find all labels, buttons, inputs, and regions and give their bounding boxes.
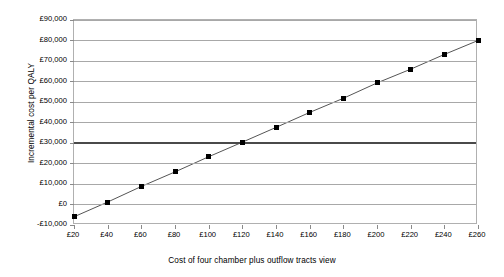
x-axis-tick-mark (411, 225, 412, 229)
x-axis-tick-mark (242, 225, 243, 229)
x-axis-tick-mark (141, 225, 142, 229)
gridline-horizontal (74, 122, 476, 123)
data-point-marker (206, 154, 211, 159)
y-axis-tick-mark (70, 61, 74, 62)
y-axis-tick-mark (70, 184, 74, 185)
gridline-horizontal (74, 102, 476, 103)
y-axis-tick-mark (70, 163, 74, 164)
x-axis-tick-mark (343, 225, 344, 229)
data-point-marker (375, 80, 380, 85)
y-axis-tick-label: £40,000 (3, 117, 67, 126)
gridline-horizontal (74, 204, 476, 205)
x-axis-tick-label: £260 (455, 230, 499, 239)
y-axis-tick-label: £20,000 (3, 158, 67, 167)
y-axis-tick-label: £30,000 (3, 137, 67, 146)
y-axis-tick-label: £80,000 (3, 35, 67, 44)
data-point-marker (105, 200, 110, 205)
gridline-horizontal (74, 81, 476, 82)
x-axis-tick-mark (209, 225, 210, 229)
y-axis-tick-label: £90,000 (3, 14, 67, 23)
data-point-marker (476, 38, 481, 43)
data-point-marker (72, 214, 77, 219)
y-axis-tick-mark (70, 102, 74, 103)
data-point-marker (274, 125, 279, 130)
y-axis-tick-label: £60,000 (3, 76, 67, 85)
y-axis-tick-label: £0 (3, 199, 67, 208)
x-axis-tick-mark (108, 225, 109, 229)
gridline-horizontal (74, 163, 476, 164)
y-axis-tick-mark (70, 81, 74, 82)
y-axis-tick-label: £70,000 (3, 55, 67, 64)
y-axis-tick-label: £50,000 (3, 96, 67, 105)
gridline-horizontal (74, 20, 476, 21)
y-axis-tick-mark (70, 20, 74, 21)
data-point-marker (307, 110, 312, 115)
plot-area (73, 19, 477, 224)
gridline-horizontal (74, 184, 476, 185)
y-axis-tick-mark (70, 40, 74, 41)
gridline-horizontal (74, 40, 476, 41)
threshold-line (74, 142, 476, 144)
x-axis-tick-mark (478, 225, 479, 229)
data-point-marker (139, 184, 144, 189)
data-point-marker (341, 96, 346, 101)
y-axis-tick-label: -£10,000 (3, 219, 67, 228)
x-axis-tick-mark (310, 225, 311, 229)
x-axis-tick-mark (377, 225, 378, 229)
data-point-marker (442, 52, 447, 57)
y-axis-tick-label: £10,000 (3, 178, 67, 187)
x-axis-tick-mark (276, 225, 277, 229)
chart-figure: Incremental cost per QALY Cost of four c… (0, 0, 504, 277)
y-axis-tick-mark (70, 204, 74, 205)
y-axis-tick-mark (70, 122, 74, 123)
x-axis-tick-mark (74, 225, 75, 229)
x-axis-title: Cost of four chamber plus outflow tracts… (0, 256, 504, 265)
x-axis-tick-mark (444, 225, 445, 229)
data-point-marker (173, 169, 178, 174)
x-axis-tick-mark (175, 225, 176, 229)
data-point-marker (240, 140, 245, 145)
data-point-marker (408, 67, 413, 72)
gridline-horizontal (74, 61, 476, 62)
